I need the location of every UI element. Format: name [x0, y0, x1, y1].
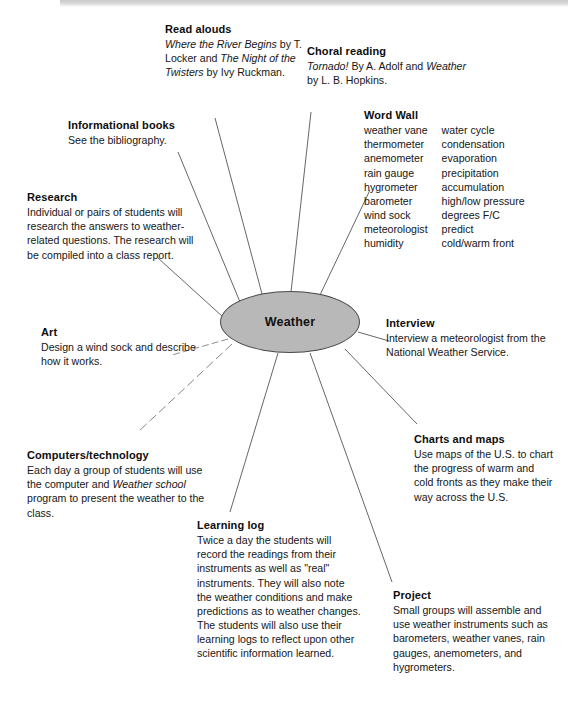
node-read-alouds: Read alouds Where the River Begins by T.… — [165, 22, 315, 80]
word-wall-term: predict — [442, 222, 525, 236]
center-node-weather: Weather — [220, 291, 360, 353]
scan-page-edge — [60, 0, 568, 7]
spoke-word-wall — [320, 190, 370, 295]
word-wall-term: degrees F/C — [442, 208, 525, 222]
word-wall-term: humidity — [364, 236, 428, 250]
node-art: Art Design a wind sock and describe how … — [41, 325, 201, 368]
node-title: Art — [41, 325, 201, 339]
node-research: Research Individual or pairs of students… — [27, 190, 202, 262]
word-wall-term: cold/warm front — [442, 236, 525, 250]
spoke-choral — [291, 112, 311, 292]
node-body: Tornado! By A. Adolf and Weather by L. B… — [307, 59, 477, 87]
word-wall-term: meteorologist — [364, 222, 428, 236]
word-wall-term: accumulation — [442, 180, 525, 194]
node-body: Where the River Begins by T. Locker and … — [165, 37, 315, 79]
word-wall-term: thermometer — [364, 137, 428, 151]
word-wall-term: hygrometer — [364, 180, 428, 194]
node-title: Informational books — [68, 118, 238, 132]
spoke-interview — [358, 332, 389, 341]
node-body: Use maps of the U.S. to chart the progre… — [414, 447, 554, 504]
node-informational-books: Informational books See the bibliography… — [68, 118, 238, 147]
node-charts-and-maps: Charts and maps Use maps of the U.S. to … — [414, 432, 554, 504]
node-title: Learning log — [197, 518, 362, 532]
word-wall-term: precipitation — [442, 166, 525, 180]
node-word-wall: Word Wall weather vane thermometer anemo… — [364, 108, 564, 250]
node-title: Choral reading — [307, 44, 477, 58]
word-wall-term: weather vane — [364, 123, 428, 137]
node-title: Read alouds — [165, 22, 315, 36]
word-wall-term: water cycle — [442, 123, 525, 137]
word-wall-term: barometer — [364, 194, 428, 208]
node-body: Interview a meteorologist from the Natio… — [386, 331, 566, 359]
node-project: Project Small groups will assemble and u… — [393, 588, 558, 674]
node-choral-reading: Choral reading Tornado! By A. Adolf and … — [307, 44, 477, 87]
node-title: Research — [27, 190, 202, 204]
center-node-label: Weather — [265, 315, 316, 329]
word-wall-columns: weather vane thermometer anemometer rain… — [364, 123, 564, 250]
spoke-research — [158, 258, 223, 317]
node-body: Individual or pairs of students will res… — [27, 205, 202, 262]
scan-page-edge-corner — [0, 0, 60, 3]
node-title: Word Wall — [364, 108, 564, 122]
word-wall-term: wind sock — [364, 208, 428, 222]
word-wall-column-left: weather vane thermometer anemometer rain… — [364, 123, 428, 250]
word-wall-term: high/low pressure — [442, 194, 525, 208]
spoke-charts — [345, 349, 417, 424]
spoke-learning-log — [230, 353, 278, 512]
node-body: Twice a day the students will record the… — [197, 533, 362, 660]
node-title: Project — [393, 588, 558, 602]
node-title: Interview — [386, 316, 566, 330]
node-body: Small groups will assemble and use weath… — [393, 603, 558, 674]
node-title: Charts and maps — [414, 432, 554, 446]
word-wall-term: rain gauge — [364, 166, 428, 180]
node-interview: Interview Interview a meteorologist from… — [386, 316, 566, 359]
node-learning-log: Learning log Twice a day the students wi… — [197, 518, 362, 660]
node-title: Computers/technology — [27, 448, 217, 462]
node-body: Each day a group of students will use th… — [27, 463, 217, 520]
word-wall-term: evaporation — [442, 151, 525, 165]
node-computers-technology: Computers/technology Each day a group of… — [27, 448, 217, 520]
node-body: See the bibliography. — [68, 133, 238, 147]
word-wall-term: condensation — [442, 137, 525, 151]
node-body: Design a wind sock and describe how it w… — [41, 340, 201, 368]
word-wall-column-right: water cycle condensation evaporation pre… — [442, 123, 525, 250]
word-wall-term: anemometer — [364, 151, 428, 165]
weather-web-diagram: Weather Read alouds Where the River Begi… — [0, 0, 568, 719]
